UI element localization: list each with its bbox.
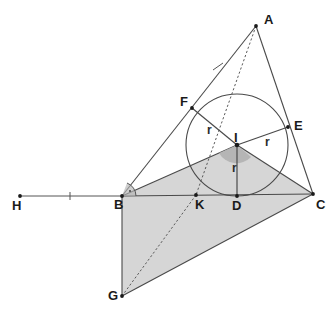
- point-label-K: K: [195, 197, 205, 212]
- radius-segment-IE: [237, 127, 288, 145]
- point-label-F: F: [180, 94, 188, 109]
- vertex-dot-G: [120, 294, 124, 298]
- vertex-dot-C: [311, 192, 315, 196]
- point-label-B: B: [114, 197, 123, 212]
- radius-label-IF: r: [207, 123, 212, 137]
- point-label-I: I: [234, 130, 238, 145]
- geometry-diagram: A B C D E F G H I K r r r: [0, 0, 335, 321]
- right-angle-dot-at-B: [129, 190, 131, 192]
- point-label-H: H: [12, 198, 21, 213]
- radius-label-IE: r: [265, 135, 270, 149]
- radius-segment-IF: [192, 108, 237, 145]
- right-angle-marker-at-B: [122, 183, 136, 196]
- point-label-E: E: [294, 118, 303, 133]
- radius-label-ID: r: [232, 161, 237, 175]
- point-label-C: C: [316, 197, 326, 212]
- point-label-A: A: [264, 12, 274, 27]
- vertex-dot-A: [254, 24, 258, 28]
- point-label-G: G: [108, 288, 118, 303]
- vertex-dot-F: [190, 106, 194, 110]
- vertex-dot-E: [286, 125, 290, 129]
- geometry-canvas: A B C D E F G H I K r r r: [0, 0, 335, 321]
- point-label-D: D: [232, 198, 241, 213]
